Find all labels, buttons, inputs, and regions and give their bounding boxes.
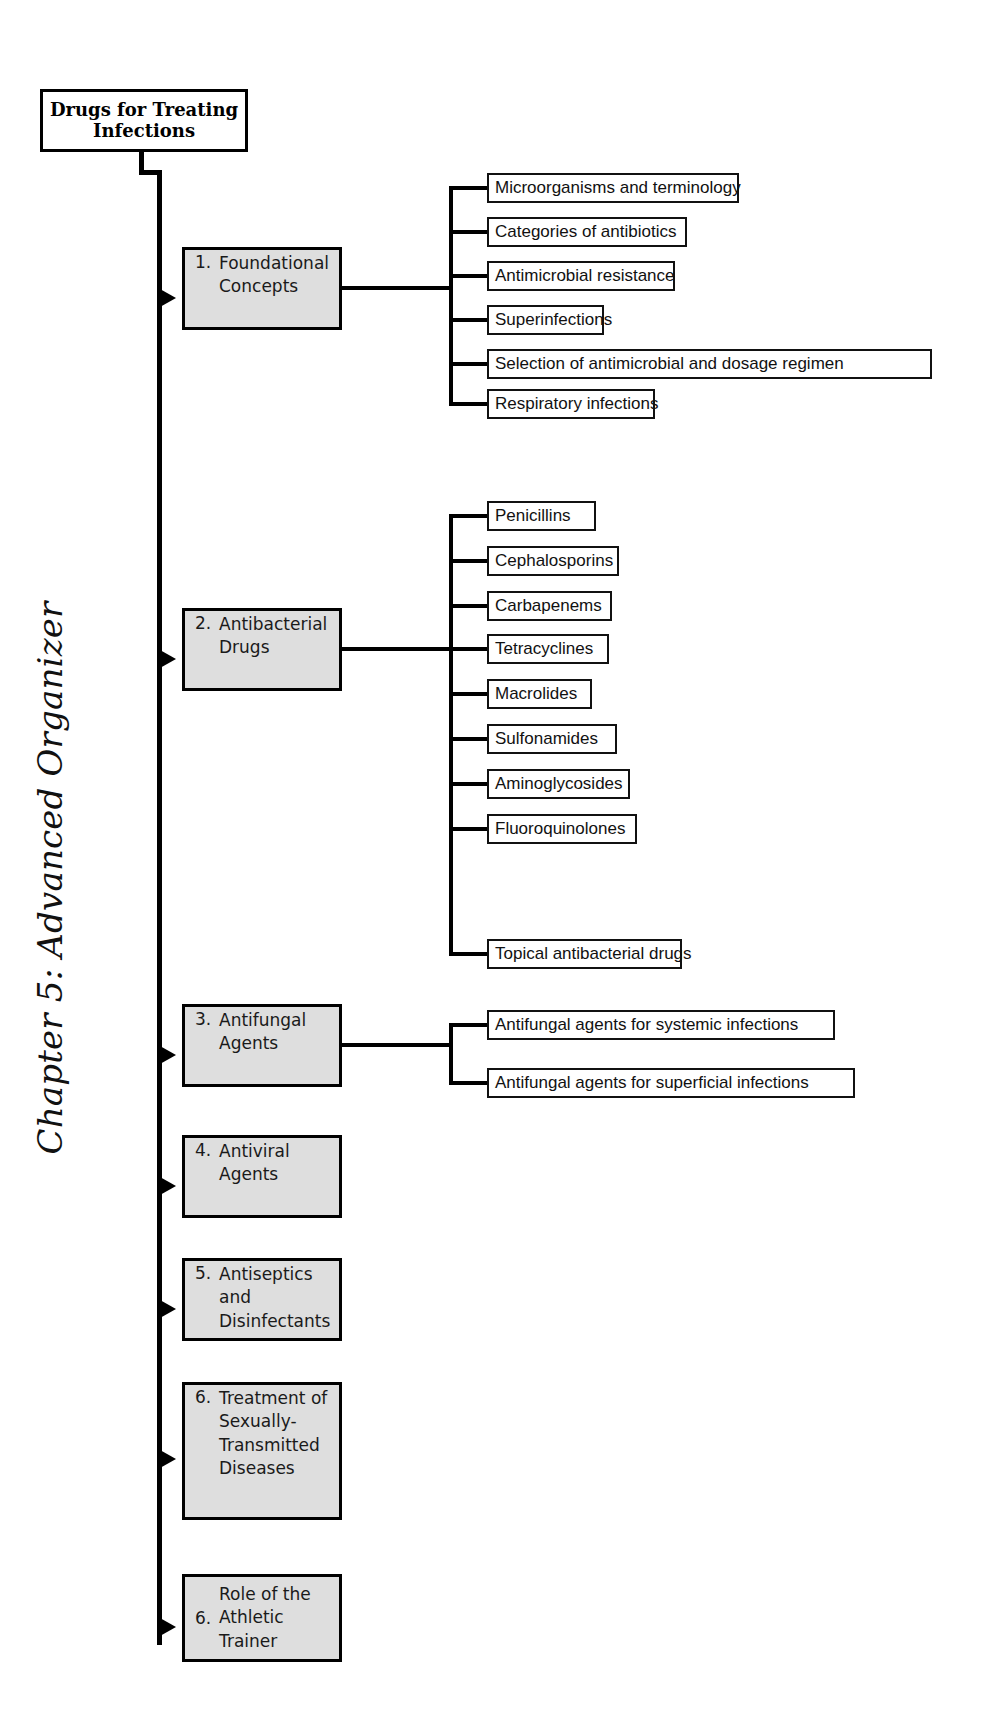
- section-3-child-stub-1: [449, 1023, 489, 1027]
- leaf-node[interactable]: Antifungal agents for superficial infect…: [487, 1068, 855, 1098]
- section-4-number: 4.: [195, 1138, 219, 1160]
- section-2-child-stub-6: [449, 737, 489, 741]
- leaf-label: Tetracyclines: [495, 639, 593, 659]
- leaf-label: Cephalosporins: [495, 551, 613, 571]
- section-2-connector-line: [342, 647, 452, 651]
- leaf-node[interactable]: Respiratory infections: [487, 389, 655, 419]
- leaf-label: Sulfonamides: [495, 729, 598, 749]
- trunk-arrow-section-4: [160, 1177, 176, 1195]
- leaf-node[interactable]: Categories of antibiotics: [487, 217, 687, 247]
- leaf-label: Superinfections: [495, 310, 612, 330]
- section-1-child-stub-6: [449, 402, 489, 406]
- section-2-child-stub-3: [449, 604, 489, 608]
- leaf-label: Macrolides: [495, 684, 577, 704]
- leaf-label: Topical antibacterial drugs: [495, 944, 692, 964]
- main-trunk-line: [157, 170, 162, 1645]
- section-1-connector-line: [342, 286, 452, 290]
- section-node-7[interactable]: 6. Role of the Athletic Trainer: [182, 1574, 342, 1662]
- leaf-node[interactable]: Antifungal agents for systemic infection…: [487, 1010, 835, 1040]
- section-2-child-stub-7: [449, 782, 489, 786]
- section-2-child-stub-9: [449, 952, 489, 956]
- leaf-node[interactable]: Macrolides: [487, 679, 592, 709]
- chapter-label: Chapter 5: Advanced Organizer: [27, 568, 73, 1188]
- section-1-child-bus: [449, 186, 453, 406]
- leaf-node[interactable]: Sulfonamides: [487, 724, 617, 754]
- section-3-child-stub-2: [449, 1081, 489, 1085]
- section-3-child-bus: [449, 1023, 453, 1085]
- leaf-node[interactable]: Carbapenems: [487, 591, 612, 621]
- section-2-child-stub-1: [449, 514, 489, 518]
- section-3-number: 3.: [195, 1007, 219, 1029]
- section-2-number: 2.: [195, 611, 219, 633]
- section-2-child-stub-4: [449, 647, 489, 651]
- leaf-node[interactable]: Superinfections: [487, 305, 604, 335]
- section-node-4[interactable]: 4. Antiviral Agents: [182, 1135, 342, 1218]
- section-7-title: Role of the Athletic Trainer: [219, 1583, 339, 1653]
- leaf-node[interactable]: Antimicrobial resistance: [487, 261, 675, 291]
- leaf-label: Selection of antimicrobial and dosage re…: [495, 354, 844, 374]
- leaf-label: Categories of antibiotics: [495, 222, 676, 242]
- root-node: Drugs for Treating Infections: [40, 89, 248, 152]
- leaf-node[interactable]: Topical antibacterial drugs: [487, 939, 682, 969]
- section-6-title: Treatment of Sexually- Transmitted Disea…: [219, 1385, 339, 1481]
- leaf-label: Carbapenems: [495, 596, 602, 616]
- trunk-arrow-section-1: [160, 289, 176, 307]
- trunk-arrow-section-2: [160, 650, 176, 668]
- section-1-title: Foundational Concepts: [219, 250, 339, 299]
- section-node-1[interactable]: 1. Foundational Concepts: [182, 247, 342, 330]
- trunk-arrow-section-7: [160, 1618, 176, 1636]
- leaf-node[interactable]: Selection of antimicrobial and dosage re…: [487, 349, 932, 379]
- section-node-5[interactable]: 5. Antiseptics and Disinfectants: [182, 1258, 342, 1341]
- section-node-6[interactable]: 6. Treatment of Sexually- Transmitted Di…: [182, 1382, 342, 1520]
- section-node-3[interactable]: 3. Antifungal Agents: [182, 1004, 342, 1087]
- section-5-number: 5.: [195, 1261, 219, 1283]
- section-1-child-stub-3: [449, 274, 489, 278]
- section-3-connector-line: [342, 1043, 452, 1047]
- leaf-node[interactable]: Tetracyclines: [487, 634, 609, 664]
- section-1-child-stub-1: [449, 186, 489, 190]
- section-2-child-bus: [449, 514, 453, 956]
- section-2-child-stub-2: [449, 559, 489, 563]
- advanced-organizer-diagram: Chapter 5: Advanced Organizer Drugs for …: [0, 0, 988, 1709]
- trunk-arrow-section-5: [160, 1300, 176, 1318]
- section-6-number: 6.: [195, 1385, 219, 1407]
- section-7-number: 6.: [195, 1608, 219, 1628]
- section-5-title: Antiseptics and Disinfectants: [219, 1261, 339, 1333]
- section-3-title: Antifungal Agents: [219, 1007, 339, 1056]
- section-1-child-stub-2: [449, 230, 489, 234]
- section-4-title: Antiviral Agents: [219, 1138, 339, 1187]
- leaf-label: Fluoroquinolones: [495, 819, 625, 839]
- section-2-title: Antibacterial Drugs: [219, 611, 339, 660]
- section-1-number: 1.: [195, 250, 219, 272]
- leaf-node[interactable]: Penicillins: [487, 501, 596, 531]
- leaf-label: Aminoglycosides: [495, 774, 623, 794]
- section-2-child-stub-5: [449, 692, 489, 696]
- section-1-child-stub-5: [449, 362, 489, 366]
- leaf-label: Antimicrobial resistance: [495, 266, 675, 286]
- leaf-label: Respiratory infections: [495, 394, 658, 414]
- leaf-label: Antifungal agents for superficial infect…: [495, 1073, 809, 1093]
- section-node-2[interactable]: 2. Antibacterial Drugs: [182, 608, 342, 691]
- trunk-arrow-section-3: [160, 1046, 176, 1064]
- leaf-node[interactable]: Cephalosporins: [487, 546, 619, 576]
- leaf-label: Antifungal agents for systemic infection…: [495, 1015, 798, 1035]
- trunk-arrow-section-6: [160, 1450, 176, 1468]
- leaf-node[interactable]: Fluoroquinolones: [487, 814, 637, 844]
- leaf-node[interactable]: Aminoglycosides: [487, 769, 630, 799]
- leaf-label: Microorganisms and terminology: [495, 178, 741, 198]
- root-title-line-1: Drugs for Treating: [50, 100, 238, 120]
- leaf-node[interactable]: Microorganisms and terminology: [487, 173, 739, 203]
- section-1-child-stub-4: [449, 318, 489, 322]
- leaf-label: Penicillins: [495, 506, 571, 526]
- root-title-line-2: Infections: [93, 121, 195, 141]
- section-2-child-stub-8: [449, 827, 489, 831]
